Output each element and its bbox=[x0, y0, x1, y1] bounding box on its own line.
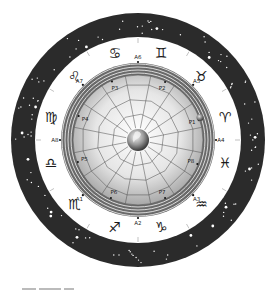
star bbox=[251, 179, 252, 180]
star bbox=[27, 134, 28, 135]
axis-label-a8: A8 bbox=[51, 137, 59, 143]
planet-label-p6: P6 bbox=[110, 189, 117, 195]
star bbox=[67, 38, 68, 39]
star bbox=[255, 146, 256, 147]
star bbox=[258, 164, 259, 165]
caption-mark bbox=[64, 288, 74, 290]
star bbox=[220, 61, 221, 62]
star bbox=[78, 229, 79, 230]
star bbox=[122, 21, 123, 22]
star bbox=[245, 170, 246, 171]
star bbox=[226, 56, 227, 57]
star bbox=[218, 60, 219, 61]
star bbox=[225, 206, 228, 209]
axis-point bbox=[137, 61, 139, 63]
star bbox=[231, 220, 232, 221]
axis-label-a4: A4 bbox=[217, 137, 225, 143]
star bbox=[23, 136, 24, 137]
star bbox=[47, 208, 48, 209]
star bbox=[235, 203, 236, 204]
star bbox=[75, 228, 76, 229]
planet-label-p3: P3 bbox=[111, 85, 118, 91]
star bbox=[72, 242, 73, 243]
star bbox=[180, 34, 181, 35]
star bbox=[130, 251, 131, 252]
planet-label-p5: P5 bbox=[81, 156, 88, 162]
star bbox=[204, 41, 205, 42]
star bbox=[211, 225, 214, 228]
aquarius-icon: ♒ bbox=[195, 196, 208, 212]
planet-point bbox=[78, 115, 80, 117]
star bbox=[31, 118, 32, 119]
star bbox=[162, 29, 163, 30]
star bbox=[131, 253, 132, 254]
planet-label-p8: P8 bbox=[187, 158, 194, 164]
caption-mark bbox=[39, 288, 61, 290]
star bbox=[20, 106, 21, 107]
star bbox=[97, 36, 98, 37]
star bbox=[251, 150, 252, 151]
planet-point bbox=[77, 161, 79, 163]
planet-label-p2: P2 bbox=[159, 85, 166, 91]
star bbox=[37, 100, 38, 101]
star bbox=[226, 67, 227, 68]
star bbox=[248, 122, 249, 123]
star bbox=[132, 255, 133, 256]
star bbox=[27, 179, 28, 180]
star bbox=[148, 22, 149, 23]
star bbox=[69, 56, 70, 57]
star bbox=[203, 36, 204, 37]
planet-point bbox=[196, 163, 198, 165]
star bbox=[230, 86, 231, 87]
star bbox=[138, 259, 139, 260]
star bbox=[76, 236, 79, 239]
star bbox=[23, 97, 24, 98]
axis-point bbox=[59, 139, 61, 141]
star bbox=[18, 107, 19, 108]
scorpio-icon: ♏ bbox=[68, 196, 81, 212]
star bbox=[85, 237, 86, 238]
star bbox=[233, 204, 234, 205]
star bbox=[156, 27, 159, 30]
star bbox=[38, 186, 39, 187]
star bbox=[61, 215, 62, 216]
star bbox=[151, 29, 152, 30]
star bbox=[38, 81, 39, 82]
star bbox=[30, 131, 31, 132]
star bbox=[254, 101, 255, 102]
planet-label-p1: P1 bbox=[189, 119, 196, 125]
star bbox=[190, 235, 191, 236]
taurus-icon: ♉ bbox=[195, 68, 208, 84]
star bbox=[102, 39, 103, 40]
star bbox=[142, 25, 143, 26]
star bbox=[251, 167, 252, 168]
star bbox=[21, 132, 24, 135]
capricorn-icon: ♑ bbox=[155, 219, 168, 235]
axis-point bbox=[137, 217, 139, 219]
star bbox=[245, 82, 246, 83]
virgo-icon: ♍ bbox=[45, 109, 58, 125]
star bbox=[140, 262, 141, 263]
star bbox=[142, 33, 143, 34]
star bbox=[150, 21, 151, 22]
star bbox=[78, 40, 79, 41]
star bbox=[113, 254, 114, 255]
aries-icon: ♈ bbox=[219, 109, 232, 125]
star bbox=[50, 211, 53, 214]
star bbox=[119, 29, 120, 30]
star bbox=[31, 182, 32, 183]
cancer-icon: ♋ bbox=[108, 45, 121, 61]
star bbox=[54, 69, 55, 70]
star bbox=[166, 258, 167, 259]
star bbox=[135, 257, 136, 258]
star bbox=[254, 136, 257, 139]
star bbox=[220, 54, 221, 55]
star bbox=[29, 105, 30, 106]
star bbox=[15, 138, 16, 139]
star bbox=[153, 251, 154, 252]
gemini-icon: ♊ bbox=[155, 45, 168, 61]
caption-placeholder bbox=[22, 278, 82, 284]
star bbox=[252, 139, 253, 140]
star bbox=[44, 195, 45, 196]
